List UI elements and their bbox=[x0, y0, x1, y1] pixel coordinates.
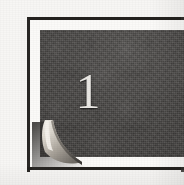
page-curl-icon bbox=[32, 118, 86, 170]
scanned-chapter-opener-page: 1 bbox=[0, 0, 184, 185]
chapter-number: 1 bbox=[70, 66, 106, 116]
